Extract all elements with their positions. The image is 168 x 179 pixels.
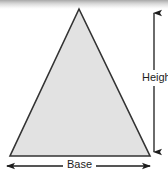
triangle-figure-svg xyxy=(0,0,168,179)
triangle-diagram: Height Base xyxy=(0,0,168,179)
base-label: Base xyxy=(63,158,96,171)
triangle-shape xyxy=(10,9,150,156)
height-label: Height xyxy=(140,71,168,84)
